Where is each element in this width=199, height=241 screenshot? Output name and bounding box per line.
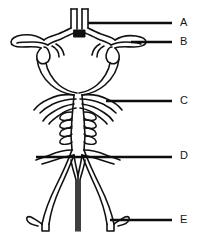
cerebral-artery-diagram (0, 0, 199, 241)
anterior-cerebral-arteries (71, 9, 88, 29)
label-b: B (180, 36, 187, 47)
pontine-branches (60, 112, 96, 144)
internal-carotid-arteries (37, 47, 120, 64)
basilar-artery (71, 95, 85, 150)
label-c: C (180, 95, 188, 106)
figure-canvas: A B C D E (0, 0, 199, 241)
anterior-communicating-artery (74, 30, 85, 37)
posterior-cerebral-arteries (37, 59, 119, 95)
label-a: A (180, 17, 187, 28)
anterior-inferior-cerebellar-arteries (43, 104, 113, 124)
vessel-outlines (11, 9, 146, 231)
label-e: E (180, 214, 187, 225)
anterior-spinal-artery (71, 155, 85, 231)
posterior-communicating-arteries (52, 44, 104, 57)
label-d: D (180, 150, 188, 161)
superior-cerebellar-arteries (34, 95, 122, 113)
